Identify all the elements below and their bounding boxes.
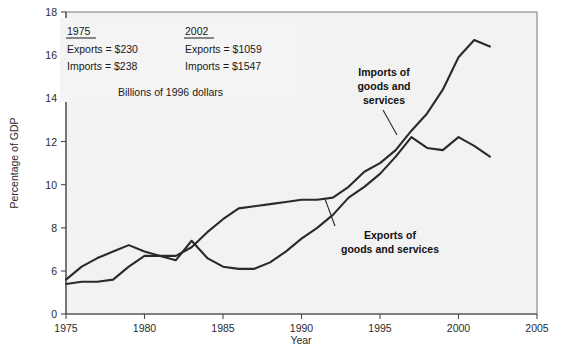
exports-label-line-2: goods and services — [341, 243, 439, 255]
infobox-year-2: 2002 — [185, 25, 209, 37]
infobox-year-1: 1975 — [67, 25, 91, 37]
x-tick-label-2005: 2005 — [525, 322, 549, 334]
x-tick-label-1980: 1980 — [133, 322, 157, 334]
exports-imports-line-chart: 0681012141618 19751980198519901995200020… — [0, 0, 563, 350]
info-box: 1975 Exports = $230 Imports = $238 2002 … — [60, 18, 302, 102]
y-tick-label-6: 6 — [51, 265, 57, 277]
x-tick-label-1990: 1990 — [290, 322, 314, 334]
y-tick-label-14: 14 — [45, 92, 57, 104]
y-tick-label-8: 8 — [51, 222, 57, 234]
y-tick-label-12: 12 — [45, 136, 57, 148]
y-tick-label-0: 0 — [51, 308, 57, 320]
y-axis-title: Percentage of GDP — [8, 117, 20, 208]
x-tick-label-1995: 1995 — [368, 322, 392, 334]
x-tick-label-1985: 1985 — [211, 322, 235, 334]
chart-figure: 0681012141618 19751980198519901995200020… — [0, 0, 563, 350]
x-tick-label-2000: 2000 — [447, 322, 471, 334]
infobox-units: Billions of 1996 dollars — [118, 86, 223, 98]
exports-label-line-1: Exports of — [364, 229, 416, 241]
infobox-imports-2: Imports = $1547 — [185, 60, 261, 72]
y-tick-label-18: 18 — [45, 6, 57, 18]
y-tick-label-10: 10 — [45, 179, 57, 191]
imports-label-line-2: goods and — [357, 80, 410, 92]
imports-label-line-1: Imports of — [358, 66, 410, 78]
y-tick-label-16: 16 — [45, 49, 57, 61]
infobox-imports-1: Imports = $238 — [67, 60, 137, 72]
infobox-exports-1: Exports = $230 — [67, 43, 138, 55]
infobox-exports-2: Exports = $1059 — [185, 43, 262, 55]
x-tick-label-1975: 1975 — [54, 322, 78, 334]
imports-label-line-3: services — [363, 94, 405, 106]
x-axis-ticks: 1975198019851990199520002005 — [54, 314, 549, 334]
x-axis-title: Year — [290, 334, 312, 346]
